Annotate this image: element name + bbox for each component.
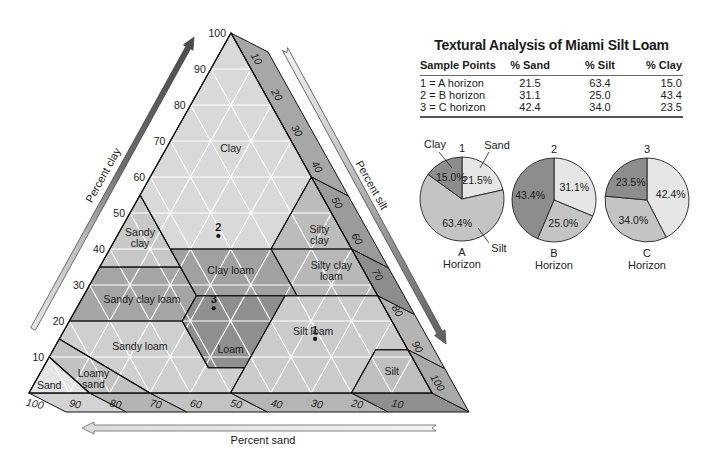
region-label-line: sand bbox=[82, 378, 105, 390]
clay-tick-label: 100 bbox=[208, 27, 226, 39]
pie-chart-2: 31.1%25.0%43.4%2BHorizon bbox=[512, 143, 596, 271]
pie-horizon-label: Horizon bbox=[628, 259, 666, 271]
sample-point-label: 2 bbox=[215, 221, 221, 233]
pie-sample-number: 1 bbox=[459, 142, 465, 154]
pie-horizon-label: Horizon bbox=[535, 259, 573, 271]
table-row: 1 = A horizon 21.5 63.4 15.0 bbox=[0, 77, 718, 89]
clay-cell: 23.5 bbox=[622, 101, 682, 113]
pie-percent-label: 34.0% bbox=[619, 214, 649, 226]
pie-percent-label: 23.5% bbox=[616, 176, 646, 188]
table-bottom-rule bbox=[420, 116, 683, 118]
sample-point-label: 3 bbox=[211, 293, 217, 305]
clay-tick-label: 50 bbox=[113, 207, 125, 219]
pie-horizon-label: C bbox=[643, 247, 651, 259]
sand-cell: 42.4 bbox=[500, 101, 560, 113]
pie-percent-label: 43.4% bbox=[515, 189, 545, 201]
clay-tick-label: 40 bbox=[93, 243, 105, 255]
horizon-pie-charts: 21.5%63.4%15.0%1AHorizonSandSiltClay31.1… bbox=[420, 138, 689, 271]
header-clay: % Clay bbox=[622, 59, 682, 71]
sample-point-marker bbox=[216, 234, 220, 238]
pie-percent-label: 21.5% bbox=[462, 174, 492, 186]
pie-percent-label: 63.4% bbox=[442, 217, 472, 229]
pie-percent-label: 25.0% bbox=[548, 217, 578, 229]
region-label-clay-loam: Clay loam bbox=[207, 264, 254, 276]
pie-callout-silt: Silt bbox=[491, 242, 506, 254]
header-silt: % Silt bbox=[570, 59, 630, 71]
region-label-silty-clay: Siltyclay bbox=[309, 223, 330, 246]
sand-cell: 21.5 bbox=[500, 77, 560, 89]
figure-page: Percent clay Percent silt Percent sand 1… bbox=[0, 0, 718, 466]
sample-point-cell: 3 = C horizon bbox=[420, 101, 486, 113]
region-label-line: Clay bbox=[220, 142, 242, 154]
sand-tick-label: 100 bbox=[25, 396, 45, 411]
table-header-divider bbox=[420, 75, 683, 76]
region-label-line: clay bbox=[310, 234, 329, 246]
clay-tick-label: 60 bbox=[134, 171, 146, 183]
pie-sample-number: 3 bbox=[644, 143, 650, 155]
silt-cell: 25.0 bbox=[570, 89, 630, 101]
pie-horizon-label: Horizon bbox=[443, 258, 481, 270]
region-label-sand: Sand bbox=[37, 379, 62, 391]
pie-callout-clay: Clay bbox=[424, 138, 447, 150]
silt-cell: 63.4 bbox=[570, 77, 630, 89]
region-label-line: Sandy clay loam bbox=[103, 293, 180, 305]
pie-callout-sand: Sand bbox=[484, 139, 510, 151]
sample-point-label: 1 bbox=[312, 324, 318, 336]
region-label-line: Sand bbox=[37, 379, 62, 391]
region-label-sandy-loam: Sandy loam bbox=[112, 340, 168, 352]
pie-chart-3: 42.4%34.0%23.5%3CHorizon bbox=[605, 143, 689, 271]
pie-chart-1: 21.5%63.4%15.0%1AHorizonSandSiltClay bbox=[420, 138, 510, 270]
pie-horizon-label: A bbox=[458, 246, 466, 258]
region-label-sandy-clay-loam: Sandy clay loam bbox=[103, 293, 180, 305]
sand-cell: 31.1 bbox=[500, 89, 560, 101]
clay-tick-label: 20 bbox=[53, 315, 65, 327]
region-label-line: Sandy loam bbox=[112, 340, 168, 352]
clay-cell: 43.4 bbox=[622, 89, 682, 101]
region-label-line: Silt bbox=[384, 365, 399, 377]
region-label-silt: Silt bbox=[384, 365, 399, 377]
region-label-loam: Loam bbox=[217, 343, 244, 355]
sample-point-marker bbox=[313, 337, 317, 341]
figure-title: Textural Analysis of Miami Silt Loam bbox=[420, 36, 683, 54]
table-row: 2 = B horizon 31.1 25.0 43.4 bbox=[0, 89, 718, 101]
pie-horizon-label: B bbox=[550, 247, 557, 259]
sample-point-cell: 1 = A horizon bbox=[420, 77, 484, 89]
pie-sample-number: 2 bbox=[551, 143, 557, 155]
header-sample-points: Sample Points bbox=[420, 59, 496, 71]
sample-point-marker bbox=[212, 306, 216, 310]
clay-tick-label: 70 bbox=[154, 135, 166, 147]
region-label-clay: Clay bbox=[220, 142, 242, 154]
clay-tick-label: 30 bbox=[73, 279, 85, 291]
region-label-line: Loam bbox=[217, 343, 244, 355]
table-header-row: Sample Points % Sand % Silt % Clay bbox=[0, 59, 718, 71]
pie-percent-label: 15.0% bbox=[436, 171, 466, 183]
pie-percent-label: 31.1% bbox=[559, 181, 589, 193]
region-label-line: loam bbox=[320, 270, 343, 282]
region-label-line: Clay loam bbox=[207, 264, 254, 276]
percent-sand-arrow-icon bbox=[82, 422, 436, 434]
sample-point-cell: 2 = B horizon bbox=[420, 89, 485, 101]
clay-tick-label: 10 bbox=[33, 351, 45, 363]
table-row: 3 = C horizon 42.4 34.0 23.5 bbox=[0, 101, 718, 113]
region-label-line: clay bbox=[131, 237, 150, 249]
sand-axis-label: Percent sand bbox=[231, 434, 296, 446]
clay-cell: 15.0 bbox=[622, 77, 682, 89]
silt-cell: 34.0 bbox=[570, 101, 630, 113]
pie-percent-label: 42.4% bbox=[656, 188, 686, 200]
header-sand: % Sand bbox=[500, 59, 560, 71]
